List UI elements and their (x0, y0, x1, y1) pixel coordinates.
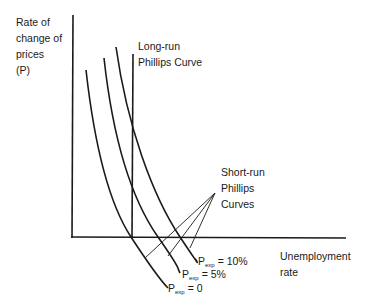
curve-label-pexp-5: Pexp = 5% (182, 268, 226, 281)
short-run-label: Short-run Phillips Curves (221, 164, 265, 212)
phillips-curve-diagram: Rate of change of prices (P) Long-run Ph… (0, 0, 366, 308)
x-axis-label: Unemployment rate (280, 248, 351, 280)
curve-subscript: exp (175, 289, 185, 295)
short-run-curve-pexp-10 (116, 47, 197, 262)
curve-symbol: P (198, 255, 205, 267)
pointer-line-0 (145, 193, 215, 258)
short-run-label-line: Curves (221, 196, 265, 212)
y-axis-label-line: (P) (16, 62, 62, 78)
x-axis-label-line: Unemployment (280, 248, 351, 264)
pointer-line-5 (168, 193, 215, 256)
y-axis (72, 15, 73, 238)
curve-value: = 0 (188, 282, 203, 294)
curve-label-pexp-0: Pexp = 0 (168, 282, 203, 295)
curve-value: = 10% (218, 255, 248, 267)
long-run-label: Long-run Phillips Curve (138, 38, 202, 70)
curve-symbol: P (168, 282, 175, 294)
pointer-line-10 (190, 193, 215, 248)
x-axis-label-line: rate (280, 264, 351, 280)
curve-label-pexp-10: Pexp = 10% (198, 255, 248, 268)
long-run-label-line: Phillips Curve (138, 54, 202, 70)
y-axis-label-line: Rate of (16, 14, 62, 30)
curve-value: = 5% (202, 268, 226, 280)
short-run-label-line: Short-run (221, 164, 265, 180)
short-run-curve-pexp-5 (104, 58, 180, 273)
short-run-label-line: Phillips (221, 180, 265, 196)
x-axis (71, 237, 346, 238)
long-run-label-line: Long-run (138, 38, 202, 54)
y-axis-label: Rate of change of prices (P) (16, 14, 62, 78)
y-axis-label-line: change of (16, 30, 62, 46)
curve-symbol: P (182, 268, 189, 280)
y-axis-label-line: prices (16, 46, 62, 62)
curve-subscript: exp (189, 275, 199, 281)
long-run-phillips-curve (132, 54, 133, 237)
